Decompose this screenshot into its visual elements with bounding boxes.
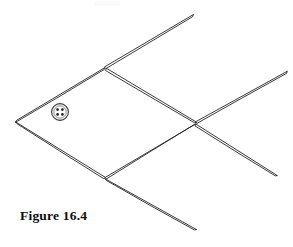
figure-caption: Figure 16.4: [20, 208, 87, 224]
button-inner-ring: [54, 106, 66, 118]
button-hole-bottom-right: [61, 113, 64, 116]
button-hole-top-right: [61, 108, 64, 111]
matchstick-lower-tail: [105, 179, 197, 230]
matchstick-upper-right-body: [105, 68, 196, 122]
button-hole-bottom-left: [56, 113, 59, 116]
matchstick-upper-tail: [104, 14, 193, 68]
matchstick-lower-right-body: [105, 124, 196, 179]
coin-button: [52, 104, 69, 121]
matchstick-lower-fin: [195, 124, 278, 176]
matchstick-upper-fin: [196, 71, 288, 123]
button-hole-top-left: [56, 108, 59, 111]
matchstick-lower-left-body: [16, 122, 106, 179]
matchstick-group: [15, 14, 287, 230]
figure-page: Figure 16.4: [0, 0, 293, 247]
